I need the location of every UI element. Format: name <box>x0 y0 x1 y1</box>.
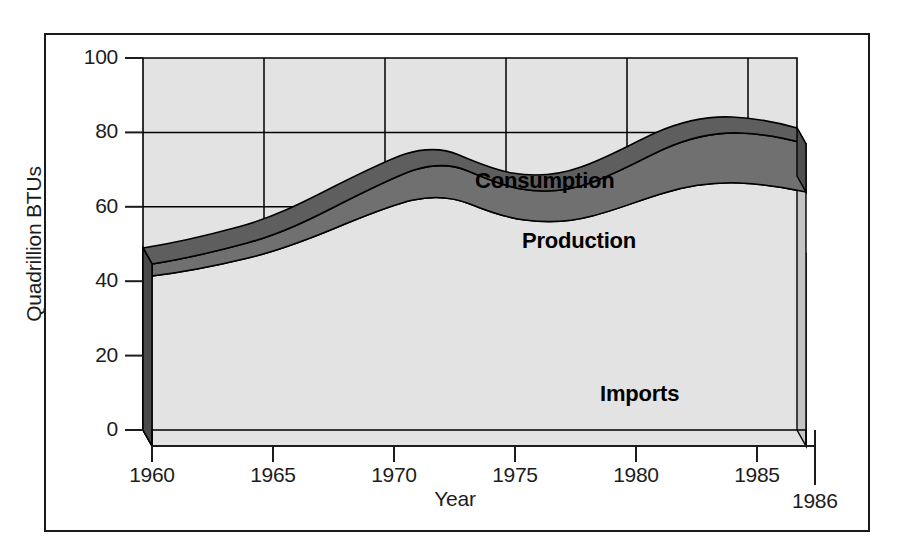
series-label-consumption: Consumption <box>475 168 615 194</box>
x-axis-title: Year <box>385 487 525 511</box>
y-tick-80: 80 <box>58 119 118 143</box>
x-tick-1980: 1980 <box>596 463 676 487</box>
y-axis <box>125 58 143 430</box>
x-tick-1965: 1965 <box>233 463 313 487</box>
y-axis-title: Quadrillion BTUs <box>22 144 46 344</box>
y-tick-60: 60 <box>58 194 118 218</box>
series-label-production: Production <box>522 228 636 254</box>
x-tick-1975: 1975 <box>475 463 555 487</box>
series-label-imports: Imports <box>600 381 679 407</box>
x-tick-1986: 1986 <box>792 489 872 513</box>
y-tick-0: 0 <box>58 417 118 441</box>
y-tick-100: 100 <box>58 45 118 69</box>
x-tick-1960: 1960 <box>112 463 192 487</box>
left-side-wall <box>143 248 152 446</box>
chart-page: 100 80 60 40 20 0 1960 1965 1970 1975 19… <box>0 0 909 559</box>
x-tick-1970: 1970 <box>354 463 434 487</box>
y-tick-40: 40 <box>58 268 118 292</box>
y-tick-20: 20 <box>58 343 118 367</box>
x-tick-1985: 1985 <box>717 463 797 487</box>
